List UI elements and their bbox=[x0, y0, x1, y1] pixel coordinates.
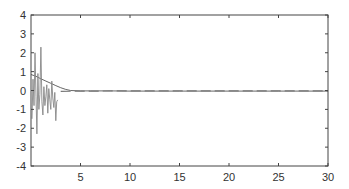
x-tick-label: 10 bbox=[124, 171, 136, 183]
y-tick-label: 1 bbox=[20, 66, 26, 78]
x-tick-label: 25 bbox=[272, 171, 284, 183]
y-tick-label: -1 bbox=[16, 103, 26, 115]
series-smooth-decay bbox=[31, 75, 328, 92]
x-tick-label: 15 bbox=[173, 171, 185, 183]
x-tick-label: 20 bbox=[223, 171, 235, 183]
x-axis-ticks: 51015202530 bbox=[77, 15, 334, 183]
line-chart: 51015202530 43210-1-2-3-4 bbox=[0, 0, 349, 189]
y-tick-label: 3 bbox=[20, 28, 26, 40]
y-axis-ticks: 43210-1-2-3-4 bbox=[16, 9, 328, 172]
series-noisy-transient bbox=[32, 47, 58, 134]
y-tick-label: -4 bbox=[16, 160, 26, 172]
y-tick-label: 2 bbox=[20, 47, 26, 59]
x-tick-label: 30 bbox=[322, 171, 334, 183]
y-tick-label: 4 bbox=[20, 9, 26, 21]
y-tick-label: -3 bbox=[16, 141, 26, 153]
y-tick-label: 0 bbox=[20, 85, 26, 97]
x-tick-label: 5 bbox=[77, 171, 83, 183]
series-layer bbox=[31, 47, 328, 134]
y-tick-label: -2 bbox=[16, 122, 26, 134]
